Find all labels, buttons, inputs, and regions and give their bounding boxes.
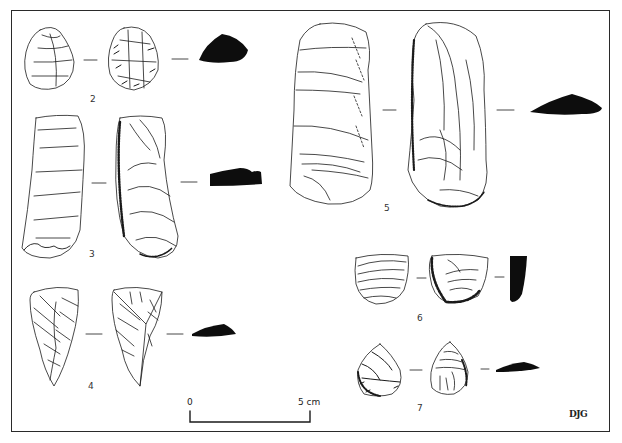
artifact-2-section	[199, 34, 248, 63]
artifact-2-dorsal	[25, 27, 74, 89]
artifact-7-ventral	[431, 342, 468, 394]
artifact-6-dorsal	[355, 254, 409, 304]
lithic-drawings	[0, 0, 622, 443]
artifact-5-section	[530, 94, 602, 115]
artifact-4-section	[192, 324, 236, 337]
artifact-label-5: 5	[384, 203, 390, 213]
artifact-label-7: 7	[417, 403, 423, 413]
illustrator-signature: DJG	[569, 409, 587, 419]
artifact-label-3: 3	[89, 249, 95, 259]
artifact-4-dorsal	[30, 287, 78, 386]
artifact-label-6: 6	[417, 313, 423, 323]
artifact-3-dorsal	[22, 115, 84, 258]
artifact-3-section	[210, 168, 262, 186]
artifact-4-ventral	[112, 287, 162, 386]
artifact-6-ventral	[429, 254, 488, 302]
scale-bar	[190, 411, 310, 422]
artifact-3-ventral	[116, 116, 178, 258]
artifact-label-2: 2	[90, 94, 96, 104]
artifact-2-ventral	[108, 27, 158, 90]
artifact-5-dorsal	[290, 23, 373, 204]
artifact-7-dorsal	[358, 344, 401, 396]
artifact-5-ventral	[408, 23, 487, 208]
artifact-6-section	[510, 256, 527, 302]
artifact-7-section	[496, 362, 540, 372]
scale-end-label: 5 cm	[298, 397, 320, 407]
artifact-label-4: 4	[88, 381, 94, 391]
scale-start-label: 0	[187, 397, 193, 407]
